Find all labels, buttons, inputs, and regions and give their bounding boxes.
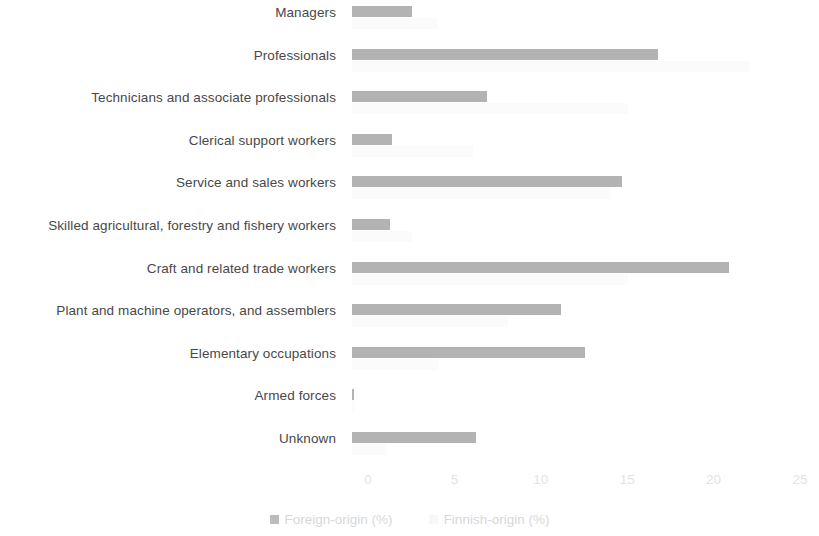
category-label: Service and sales workers	[0, 176, 352, 190]
chart-category-row: Unknown	[0, 432, 819, 466]
chart-category-row: Plant and machine operators, and assembl…	[0, 304, 819, 338]
bar-finnish-origin	[352, 401, 355, 412]
bar-foreign-origin	[352, 347, 585, 358]
category-label: Unknown	[0, 432, 352, 446]
category-label: Managers	[0, 6, 352, 20]
category-bars	[352, 389, 819, 423]
category-label: Craft and related trade workers	[0, 262, 352, 276]
legend-label: Finnish-origin (%)	[444, 512, 550, 527]
category-bars	[352, 304, 819, 338]
bar-foreign-origin	[352, 6, 412, 17]
bar-foreign-origin	[352, 304, 561, 315]
bar-finnish-origin	[352, 316, 508, 327]
legend-label: Foreign-origin (%)	[285, 512, 393, 527]
bar-foreign-origin	[352, 91, 487, 102]
category-bars	[352, 176, 819, 210]
bar-foreign-origin	[352, 176, 622, 187]
bar-finnish-origin	[352, 231, 412, 242]
legend-swatch-icon	[429, 515, 438, 524]
bar-finnish-origin	[352, 146, 473, 157]
category-bars	[352, 262, 819, 296]
legend-item[interactable]: Finnish-origin (%)	[429, 512, 550, 527]
category-label: Clerical support workers	[0, 134, 352, 148]
x-axis-tick-label: 5	[451, 472, 459, 487]
x-axis: 0510152025	[352, 472, 819, 494]
chart-category-row: Technicians and associate professionals	[0, 91, 819, 125]
category-label: Plant and machine operators, and assembl…	[0, 304, 352, 318]
bar-finnish-origin	[352, 444, 387, 455]
bar-finnish-origin	[352, 61, 749, 72]
chart-category-row: Elementary occupations	[0, 347, 819, 381]
category-bars	[352, 6, 819, 40]
x-axis-tick-label: 25	[792, 472, 807, 487]
bar-foreign-origin	[352, 389, 354, 400]
category-bars	[352, 49, 819, 83]
plot-area: ManagersProfessionalsTechnicians and ass…	[0, 0, 819, 470]
category-bars	[352, 432, 819, 466]
category-label: Elementary occupations	[0, 347, 352, 361]
bar-foreign-origin	[352, 49, 658, 60]
category-bars	[352, 134, 819, 168]
x-axis-tick-label: 10	[533, 472, 548, 487]
bar-finnish-origin	[352, 188, 611, 199]
category-label: Armed forces	[0, 389, 352, 403]
chart-legend: Foreign-origin (%)Finnish-origin (%)	[0, 512, 819, 527]
bar-finnish-origin	[352, 18, 438, 29]
bar-finnish-origin	[352, 359, 438, 370]
bar-foreign-origin	[352, 262, 729, 273]
chart-category-row: Service and sales workers	[0, 176, 819, 210]
chart-category-row: Armed forces	[0, 389, 819, 423]
bar-finnish-origin	[352, 103, 628, 114]
bar-foreign-origin	[352, 219, 390, 230]
chart-category-row: Clerical support workers	[0, 134, 819, 168]
category-label: Technicians and associate professionals	[0, 91, 352, 105]
bar-finnish-origin	[352, 274, 628, 285]
category-label: Skilled agricultural, forestry and fishe…	[0, 219, 352, 233]
legend-swatch-icon	[270, 515, 279, 524]
chart-category-row: Managers	[0, 6, 819, 40]
chart-category-row: Professionals	[0, 49, 819, 83]
x-axis-tick-label: 0	[364, 472, 372, 487]
chart-category-row: Skilled agricultural, forestry and fishe…	[0, 219, 819, 253]
bar-foreign-origin	[352, 134, 392, 145]
chart-category-row: Craft and related trade workers	[0, 262, 819, 296]
category-bars	[352, 347, 819, 381]
category-bars	[352, 91, 819, 125]
x-axis-tick-label: 20	[706, 472, 721, 487]
bar-foreign-origin	[352, 432, 476, 443]
legend-item[interactable]: Foreign-origin (%)	[270, 512, 393, 527]
bar-chart: ManagersProfessionalsTechnicians and ass…	[0, 0, 819, 536]
category-bars	[352, 219, 819, 253]
x-axis-tick-label: 15	[620, 472, 635, 487]
category-label: Professionals	[0, 49, 352, 63]
